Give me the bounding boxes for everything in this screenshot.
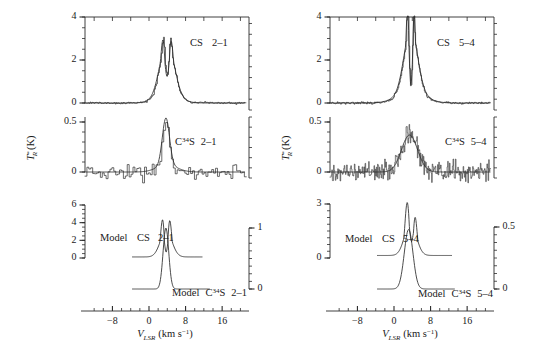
right-bot-model-cs-transition: 5–4 (403, 233, 420, 244)
left-xaxis-tick-label: −8 (107, 315, 118, 326)
left-top-transition-label: 2–1 (212, 37, 228, 48)
left-bot-yaxis-left-tick-label: 2 (72, 234, 77, 245)
right-top-transition-label: 5–4 (459, 37, 476, 48)
left-bot-model-cs-species: CS (137, 232, 150, 243)
left-xaxis-tick-label: 0 (147, 315, 152, 326)
left-bot-yaxis-right-tick-label: 0 (258, 282, 263, 293)
right-mid-yaxis-tick-label: 0 (317, 165, 322, 176)
left-mid-yaxis-tick-label: 0 (72, 165, 77, 176)
left-bot-yaxis-left-tick-label: 0 (72, 251, 77, 262)
right-bot-yaxis-right-tick-label: 0 (503, 282, 508, 293)
right-bot-yaxis-left-tick-label: 3 (317, 197, 322, 208)
right-bot-model-cs-prefix: Model (345, 233, 372, 244)
left-bot-yaxis-left-tick-label: 6 (72, 198, 77, 209)
left-mid-yaxis-tick-label: 0.5 (64, 115, 77, 126)
left-xaxis-tick-label: 8 (183, 315, 188, 326)
right-xaxis-tick-label: 0 (392, 315, 397, 326)
figure-root: 02400.5024601−80816 02400.50300.5−80816 … (0, 0, 550, 359)
spectra-figure: 02400.5024601−80816 02400.50300.5−80816 … (0, 0, 550, 359)
right-top-yaxis-tick-label: 2 (317, 53, 322, 64)
figure-background (0, 0, 550, 359)
left-top-yaxis-tick-label: 2 (72, 53, 77, 64)
left-bot-model-cs-transition: 2–1 (158, 232, 174, 243)
right-xaxis-tick-label: 8 (428, 315, 433, 326)
left-bot-model-cs-prefix: Model (100, 232, 127, 243)
right-xaxis-tick-label: −8 (352, 315, 363, 326)
right-top-yaxis-tick-label: 0 (317, 96, 322, 107)
left-bot-yaxis-right-tick-label: 1 (258, 221, 263, 232)
right-mid-yaxis-tick-label: 0.5 (309, 115, 322, 126)
right-top-species-label: CS (437, 37, 450, 48)
left-top-yaxis-tick-label: 4 (72, 10, 77, 21)
right-xaxis-tick-label: 16 (462, 315, 472, 326)
right-bot-model-c34s-label: ModelC34S5–4 (418, 287, 494, 299)
right-top-yaxis-tick-label: 4 (317, 10, 322, 21)
left-bot-model-c34s-label: ModelC34S2–1 (172, 286, 247, 298)
right-bot-model-cs-species: CS (382, 233, 395, 244)
left-xaxis-tick-label: 16 (217, 315, 227, 326)
right-bot-yaxis-left-tick-label: 0 (317, 251, 322, 262)
right-bot-yaxis-right-tick-label: 0.5 (503, 220, 516, 231)
left-top-yaxis-tick-label: 0 (72, 96, 77, 107)
left-top-species-label: CS (190, 37, 203, 48)
left-bot-yaxis-left-tick-label: 4 (72, 216, 77, 227)
